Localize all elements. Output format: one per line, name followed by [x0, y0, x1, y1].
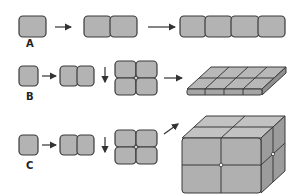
row-a [19, 16, 285, 37]
cell-chain-2 [84, 16, 137, 37]
cell-cube-2x2x2 [182, 116, 285, 193]
row-label-c: C [26, 160, 33, 171]
cell-pair [60, 135, 94, 155]
arrow-diagonal-icon [164, 124, 178, 134]
cell-single [19, 16, 46, 37]
cell-grid-2x2 [115, 61, 157, 95]
cell-division-diagram [0, 0, 298, 194]
cell-grid-2x2 [115, 130, 157, 164]
row-c [19, 116, 285, 193]
row-b [19, 61, 286, 95]
cell-sheet-slab [187, 67, 286, 95]
cell-single [19, 135, 38, 155]
cell-single [19, 66, 38, 86]
row-label-b: B [26, 91, 34, 102]
cell-chain-4 [180, 16, 285, 37]
row-label-a: A [26, 38, 34, 49]
cell-pair [60, 66, 94, 86]
